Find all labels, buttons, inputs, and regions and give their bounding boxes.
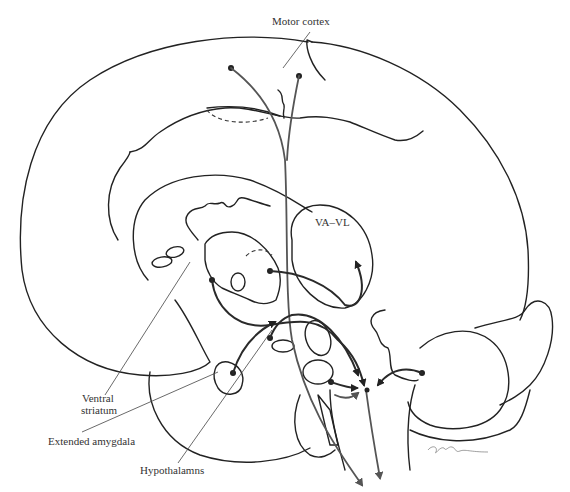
label-va-vl: VA–VL bbox=[315, 216, 350, 228]
label-extended-amygdala: Extended amygdala bbox=[48, 435, 135, 447]
hemisphere-top-right bbox=[312, 42, 528, 320]
small-nucleus bbox=[231, 273, 245, 291]
descending-tract-center bbox=[366, 390, 380, 478]
motor-cortex-wavy bbox=[278, 90, 284, 118]
cingulate-lower bbox=[108, 152, 130, 240]
hypothalamus-leader bbox=[178, 330, 272, 463]
brainstem-right bbox=[408, 385, 415, 470]
convergence-point bbox=[365, 388, 370, 393]
artist-signature bbox=[428, 447, 488, 453]
occipital-lobe-tip bbox=[475, 301, 553, 405]
label-hypothalamus: Hypothalamns bbox=[140, 464, 204, 476]
putamen bbox=[205, 232, 280, 303]
hemisphere-back-notch bbox=[307, 40, 325, 80]
amygdala-projection bbox=[233, 322, 275, 373]
midbrain bbox=[295, 395, 335, 457]
pallidum-projection bbox=[331, 382, 357, 388]
label-ventral-striatum-1: Ventral bbox=[82, 392, 114, 404]
motor-cortex-leader bbox=[283, 32, 310, 68]
caudate-nucleus bbox=[186, 198, 270, 240]
brain-diagram bbox=[0, 0, 570, 492]
grey-side-arrow bbox=[335, 393, 358, 398]
temporal-lobe bbox=[149, 372, 310, 462]
cerebellar-lower-band bbox=[410, 390, 530, 441]
hypothalamus-body bbox=[272, 340, 294, 352]
mammillary-body-1 bbox=[301, 317, 336, 359]
label-ventral-striatum-2: striatum bbox=[81, 404, 117, 416]
cerebellum bbox=[408, 331, 509, 429]
ventral-striatum-islet-2 bbox=[151, 255, 172, 268]
label-motor-cortex: Motor cortex bbox=[272, 15, 330, 27]
